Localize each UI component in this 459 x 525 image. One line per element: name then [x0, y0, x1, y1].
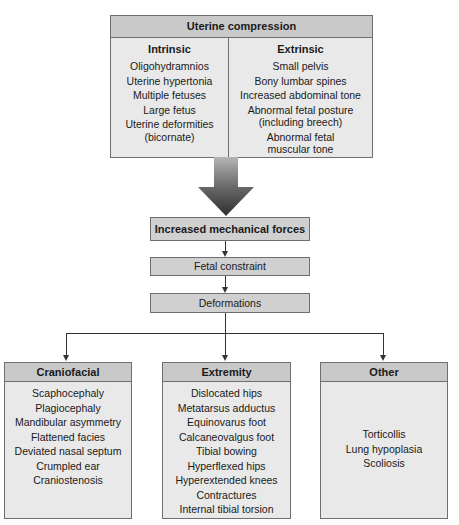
arrowhead-icon	[380, 355, 386, 361]
intrinsic-item: (bicornate)	[111, 130, 228, 145]
extrinsic-item: Bony lumbar spines	[229, 74, 372, 89]
intrinsic-item: Multiple fetuses	[111, 88, 228, 103]
craniofacial-item: Flattened facies	[5, 430, 131, 445]
connector-line	[66, 333, 384, 334]
other-item: Scoliosis	[321, 456, 447, 471]
craniofacial-item: Deviated nasal septum	[5, 444, 131, 459]
other-item: Torticollis	[321, 427, 447, 442]
craniofacial-item: Crumpled ear	[5, 459, 131, 474]
extremity-item: Hyperflexed hips	[163, 459, 290, 474]
connector-line	[225, 276, 226, 287]
extrinsic-item: (including breech)	[229, 115, 372, 130]
other-title: Other	[321, 363, 447, 382]
extremity-item: Metatarsus adductus	[163, 401, 290, 416]
extrinsic-item: Small pelvis	[229, 59, 372, 74]
extremity-title: Extremity	[163, 363, 290, 382]
extrinsic-item: muscular tone	[229, 142, 372, 157]
other-list: Torticollis Lung hypoplasia Scoliosis	[321, 427, 447, 471]
intrinsic-item: Uterine hypertonia	[111, 74, 228, 89]
intrinsic-column: Intrinsic Oligohydramnios Uterine hypert…	[111, 38, 229, 157]
connector-line	[225, 313, 226, 356]
craniofacial-item: Craniostenosis	[5, 473, 131, 488]
craniofacial-item: Scaphocephaly	[5, 386, 131, 401]
craniofacial-box: Craniofacial Scaphocephaly Plagiocephaly…	[4, 362, 132, 519]
other-box: Other Torticollis Lung hypoplasia Scolio…	[320, 362, 448, 519]
extremity-list: Dislocated hips Metatarsus adductus Equi…	[163, 386, 290, 517]
uterine-compression-box: Uterine compression Intrinsic Oligohydra…	[110, 15, 373, 158]
extrinsic-list: Small pelvis Bony lumbar spines Increase…	[229, 59, 372, 157]
intrinsic-item: Oligohydramnios	[111, 59, 228, 74]
extremity-item: Contractures	[163, 488, 290, 503]
extrinsic-column: Extrinsic Small pelvis Bony lumbar spine…	[229, 38, 372, 157]
other-item: Lung hypoplasia	[321, 442, 447, 457]
extrinsic-title: Extrinsic	[229, 42, 372, 57]
deformations-box: Deformations	[150, 293, 310, 313]
extremity-item: Equinovarus foot	[163, 415, 290, 430]
craniofacial-item: Plagiocephaly	[5, 401, 131, 416]
uterine-compression-title: Uterine compression	[111, 16, 372, 38]
craniofacial-item: Mandibular asymmetry	[5, 415, 131, 430]
extremity-item: Tibial bowing	[163, 444, 290, 459]
extrinsic-item: Increased abdominal tone	[229, 88, 372, 103]
down-arrow-icon	[196, 157, 258, 219]
intrinsic-item: Large fetus	[111, 103, 228, 118]
extremity-box: Extremity Dislocated hips Metatarsus add…	[162, 362, 291, 519]
extremity-item: Hyperextended knees	[163, 473, 290, 488]
connector-line	[66, 333, 67, 356]
arrowhead-icon	[63, 355, 69, 361]
extremity-item: Internal tibial torsion	[163, 502, 290, 517]
craniofacial-list: Scaphocephaly Plagiocephaly Mandibular a…	[5, 386, 131, 488]
intrinsic-title: Intrinsic	[111, 42, 228, 57]
connector-line	[383, 333, 384, 356]
intrinsic-list: Oligohydramnios Uterine hypertonia Multi…	[111, 59, 228, 144]
arrowhead-icon	[222, 355, 228, 361]
extremity-item: Calcaneovalgus foot	[163, 430, 290, 445]
mechanical-forces-box: Increased mechanical forces	[150, 217, 310, 241]
fetal-constraint-box: Fetal constraint	[150, 257, 310, 276]
craniofacial-title: Craniofacial	[5, 363, 131, 382]
extremity-item: Dislocated hips	[163, 386, 290, 401]
